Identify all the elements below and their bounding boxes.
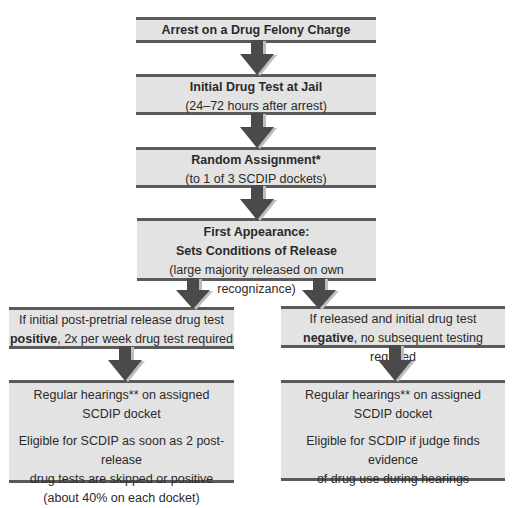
node-positive-branch: If initial post-pretrial release drug te…: [9, 307, 234, 349]
arrow-down-icon: [104, 346, 146, 382]
positive-keyword: positive: [10, 332, 57, 346]
node-line3: Eligible for SCDIP if judge finds eviden…: [281, 432, 505, 470]
node-title-line1: First Appearance:: [137, 223, 376, 242]
node-title: Random Assignment*: [136, 151, 376, 170]
spacer: [281, 424, 505, 432]
node-negative-branch: If released and initial drug test negati…: [281, 306, 505, 348]
node-line5: (about 40% on each docket): [9, 489, 234, 508]
arrow-down-icon: [236, 113, 278, 149]
node-line4: of drug use during hearings: [281, 470, 505, 489]
node-negative-outcome: Regular hearings** on assigned SCDIP doc…: [281, 380, 505, 481]
arrow-down-left-branch-icon: [172, 278, 214, 310]
node-title-line2: Sets Conditions of Release: [137, 242, 376, 261]
arrow-down-icon: [236, 185, 278, 221]
spacer: [9, 424, 234, 432]
node-line1: Regular hearings** on assigned: [281, 386, 505, 405]
node-line1: Regular hearings** on assigned: [9, 386, 234, 405]
node-initial-drug-test: Initial Drug Test at Jail (24–72 hours a…: [136, 74, 376, 115]
node-line2-rest: , 2x per week drug test required: [57, 332, 233, 346]
node-first-appearance: First Appearance: Sets Conditions of Rel…: [137, 218, 376, 281]
arrow-down-right-branch-icon: [298, 278, 340, 310]
node-positive-outcome: Regular hearings** on assigned SCDIP doc…: [9, 380, 234, 483]
node-line1: If initial post-pretrial release drug te…: [9, 311, 234, 330]
node-line2: SCDIP docket: [9, 405, 234, 424]
node-line4: drug tests are skipped or positive: [9, 470, 234, 489]
node-line1: If released and initial drug test: [281, 310, 505, 329]
arrow-down-icon: [236, 40, 278, 76]
node-title: Initial Drug Test at Jail: [136, 78, 376, 97]
node-title: Arrest on a Drug Felony Charge: [136, 20, 376, 40]
node-random-assignment: Random Assignment* (to 1 of 3 SCDIP dock…: [136, 147, 376, 188]
negative-keyword: negative: [303, 331, 354, 345]
node-line3: Eligible for SCDIP as soon as 2 post-rel…: [9, 432, 234, 470]
arrow-down-icon: [374, 345, 416, 382]
node-line2: SCDIP docket: [281, 405, 505, 424]
